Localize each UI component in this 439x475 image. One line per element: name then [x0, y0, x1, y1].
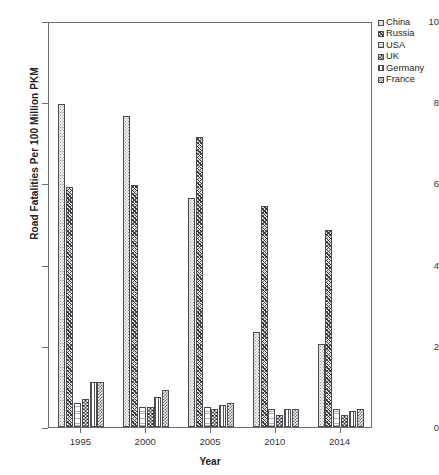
bar-usa-1995 — [74, 403, 81, 427]
y-tick-mark — [42, 428, 48, 429]
legend-item-france[interactable]: France — [378, 74, 439, 85]
y-tick-label: 4 — [413, 261, 439, 271]
bar-france-2005 — [227, 403, 234, 427]
y-axis-title: Road Fatalities Per 100 Million PKM — [29, 34, 40, 274]
x-tick-label: 2010 — [245, 437, 305, 447]
bar-russia-2005 — [196, 137, 203, 427]
y-tick-label: 6 — [413, 180, 439, 190]
plot-area — [48, 22, 372, 428]
legend-label: China — [386, 18, 410, 27]
bar-france-2014 — [357, 409, 364, 427]
x-tick-mark — [275, 428, 276, 433]
bar-uk-2000 — [147, 407, 154, 427]
bar-germany-2014 — [349, 411, 356, 427]
bar-usa-2000 — [139, 407, 146, 427]
bar-uk-2005 — [211, 409, 218, 427]
bar-france-2010 — [292, 409, 299, 427]
x-tick-mark — [145, 428, 146, 433]
legend-swatch-germany-icon — [378, 65, 384, 71]
x-tick-label: 2000 — [115, 437, 175, 447]
bar-china-2000 — [123, 116, 130, 427]
legend-swatch-russia-icon — [378, 31, 384, 37]
top-caption — [0, 0, 439, 9]
x-tick-mark — [80, 428, 81, 433]
bar-germany-2005 — [219, 405, 226, 427]
legend-swatch-france-icon — [378, 77, 384, 83]
bar-china-2014 — [318, 344, 325, 427]
legend-label: Germany — [386, 64, 424, 73]
bar-usa-2010 — [268, 409, 275, 427]
legend-item-russia[interactable]: Russia — [378, 28, 439, 39]
bar-russia-2010 — [261, 206, 268, 427]
y-tick-label: 0 — [413, 423, 439, 433]
bar-russia-2014 — [325, 230, 332, 427]
y-tick-label: 8 — [413, 98, 439, 108]
bar-france-2000 — [162, 390, 169, 427]
legend-item-usa[interactable]: USA — [378, 40, 439, 51]
bar-germany-2010 — [284, 409, 291, 427]
bar-russia-2000 — [131, 185, 138, 427]
x-tick-mark — [340, 428, 341, 433]
x-tick-label: 2005 — [180, 437, 240, 447]
bar-uk-1995 — [82, 399, 89, 427]
bar-china-1995 — [58, 104, 65, 427]
bar-russia-1995 — [66, 187, 73, 427]
bar-uk-2014 — [341, 415, 348, 427]
legend-item-china[interactable]: China — [378, 17, 439, 28]
legend-swatch-china-icon — [378, 20, 384, 26]
legend-label: Russia — [386, 29, 414, 38]
legend-item-uk[interactable]: UK — [378, 51, 439, 62]
legend-label: UK — [386, 52, 399, 61]
legend: ChinaRussiaUSAUKGermanyFrance — [378, 17, 439, 85]
y-tick-label: 2 — [413, 342, 439, 352]
x-tick-mark — [210, 428, 211, 433]
x-tick-label: 1995 — [50, 437, 110, 447]
bar-usa-2014 — [333, 409, 340, 427]
x-axis-title: Year — [48, 456, 372, 467]
bar-germany-1995 — [90, 382, 97, 427]
legend-label: USA — [386, 41, 405, 50]
legend-label: France — [386, 75, 415, 84]
bar-china-2010 — [253, 332, 260, 427]
bar-germany-2000 — [154, 397, 161, 427]
bar-uk-2010 — [276, 415, 283, 427]
x-tick-label: 2014 — [310, 437, 370, 447]
legend-item-germany[interactable]: Germany — [378, 63, 439, 74]
bar-france-1995 — [97, 382, 104, 427]
legend-swatch-uk-icon — [378, 54, 384, 60]
legend-swatch-usa-icon — [378, 42, 384, 48]
bar-china-2005 — [188, 198, 195, 427]
bar-usa-2005 — [204, 407, 211, 427]
bar-chart-figure: Road Fatalities Per 100 Million PKM 0246… — [0, 0, 439, 475]
